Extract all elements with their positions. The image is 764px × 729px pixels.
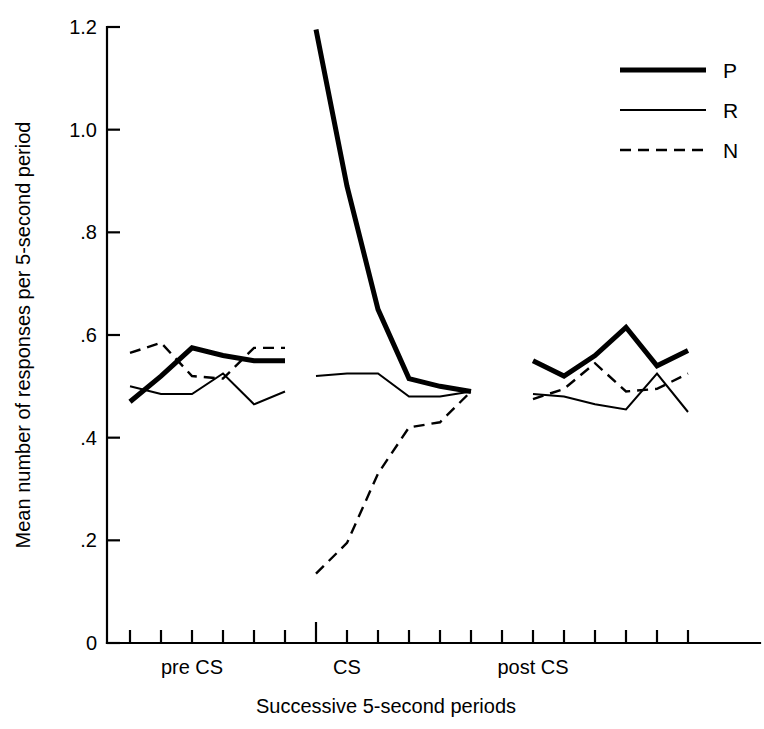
- y-axis-ticks: [107, 27, 120, 643]
- data-line-p-post-cs: [533, 327, 688, 376]
- data-line-n-post-cs: [533, 363, 688, 399]
- y-axis-tick-label: 1.0: [69, 119, 97, 141]
- chart-legend: PRN: [620, 59, 738, 162]
- x-axis-title: Successive 5-second periods: [256, 695, 516, 717]
- x-axis-category-label: post CS: [497, 656, 568, 678]
- y-axis-tick-label: .4: [80, 427, 97, 449]
- data-line-p-pre-cs: [130, 348, 285, 402]
- legend-label-p: P: [723, 59, 737, 82]
- data-line-r-post-cs: [533, 374, 688, 413]
- x-axis-ticks: [130, 622, 688, 643]
- chart-figure: 0.2.4.6.81.01.2 pre CSCSpost CS PRN Succ…: [0, 0, 764, 729]
- line-chart-svg: 0.2.4.6.81.01.2 pre CSCSpost CS PRN Succ…: [0, 0, 764, 729]
- y-axis-tick-label: .8: [80, 221, 97, 243]
- y-axis-tick-labels: 0.2.4.6.81.01.2: [69, 16, 97, 654]
- y-axis-tick-label: 1.2: [69, 16, 97, 38]
- x-axis-category-label: CS: [333, 656, 361, 678]
- x-axis-category-labels: pre CSCSpost CS: [161, 656, 569, 678]
- data-line-r-cs: [316, 374, 471, 397]
- data-line-p-cs: [316, 30, 471, 392]
- data-series-layer: [130, 30, 688, 574]
- legend-label-r: R: [723, 99, 738, 122]
- y-axis-tick-label: .6: [80, 324, 97, 346]
- y-axis-title: Mean number of responses per 5-second pe…: [12, 122, 34, 549]
- x-axis-category-label: pre CS: [161, 656, 223, 678]
- y-axis-tick-label: 0: [86, 632, 97, 654]
- data-line-n-cs: [316, 391, 471, 573]
- y-axis-tick-label: .2: [80, 529, 97, 551]
- legend-label-n: N: [723, 139, 738, 162]
